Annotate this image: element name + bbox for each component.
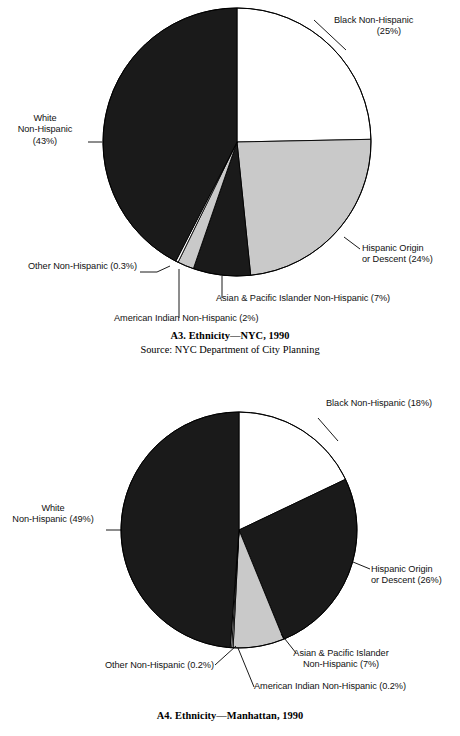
label-asian-pacific-islander-a3: Asian & Pacific Islander Non-Hispanic (7… <box>216 293 390 304</box>
leader-line-black <box>318 418 338 441</box>
pie-slice <box>237 139 371 275</box>
leader-line-other <box>215 646 236 665</box>
label-hispanic-origin-a3: Hispanic Origin or Descent (24%) <box>362 243 460 266</box>
caption-source-a3: Source: NYC Department of City Planning <box>0 344 460 355</box>
label-white-non-hispanic-a3: White Non-Hispanic (43%) <box>2 113 88 147</box>
label-other-non-hispanic-a4: Other Non-Hispanic (0.2%) <box>48 660 214 671</box>
figure-a3-nyc-1990: Black Non-Hispanic (25%) White Non-Hispa… <box>0 0 460 370</box>
pie-slices-a3 <box>103 8 371 276</box>
leader-line-black-2 <box>314 20 330 35</box>
label-hispanic-origin-a4: Hispanic Origin or Descent (26%) <box>371 564 460 587</box>
pie-slices-a4 <box>121 412 357 648</box>
label-white-non-hispanic-a4: White Non-Hispanic (49%) <box>0 503 106 526</box>
label-american-indian-a4: American Indian Non-Hispanic (0.2%) <box>254 681 406 692</box>
caption-title-a4: A4. Ethnicity—Manhattan, 1990 <box>0 710 460 721</box>
leader-line-hispanic <box>353 562 370 569</box>
leader-line-amerindian <box>238 648 254 687</box>
figure-a4-manhattan-1990: Black Non-Hispanic (18%) White Non-Hispa… <box>0 370 460 736</box>
label-american-indian-a3: American Indian Non-Hispanic (2%) <box>114 313 258 324</box>
leader-line-other <box>140 266 170 272</box>
label-other-non-hispanic-a3: Other Non-Hispanic (0.3%) <box>0 261 137 272</box>
leader-line-hispanic <box>344 237 360 249</box>
pie-slice <box>121 412 239 648</box>
caption-title-a3: A3. Ethnicity—NYC, 1990 <box>0 330 460 341</box>
label-black-non-hispanic-a4: Black Non-Hispanic (18%) <box>326 398 432 409</box>
label-asian-pacific-islander-a4: Asian & Pacific Islander Non-Hispanic (7… <box>277 648 405 671</box>
label-black-non-hispanic-a3: Black Non-Hispanic (25%) <box>334 15 460 38</box>
